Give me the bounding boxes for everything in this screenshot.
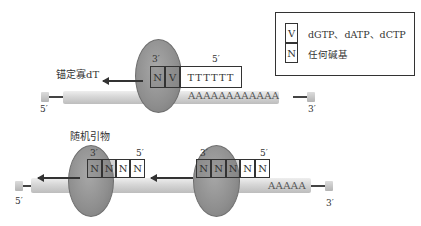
primer-5-prime-label: 5′: [212, 54, 220, 64]
legend-v-symbol: V: [285, 23, 298, 43]
primer2-base: N: [226, 159, 240, 178]
template-5-prime-label: 5′: [15, 196, 23, 206]
template-3-prime-label: 3′: [326, 198, 334, 208]
extension-arrow-2: [151, 177, 193, 179]
legend-n-symbol: N: [285, 43, 298, 63]
primer2-base: N: [211, 159, 226, 178]
primer2-5-prime-label: 5′: [260, 148, 268, 158]
legend-n-text: 任何碱基: [308, 47, 348, 61]
primer1-5-prime-label: 5′: [136, 148, 144, 158]
template-5-linker: [23, 185, 31, 187]
poly-a-tail: AAAAA: [268, 180, 306, 191]
primer-base-v: V: [165, 66, 180, 88]
template-5-end-cap: [15, 181, 23, 191]
primer2-base: N: [196, 159, 211, 178]
primer2-3-prime-label: 3′: [200, 148, 208, 158]
anchored-oligo-dt-label: 锚定寡dT: [56, 66, 99, 81]
primer1-base: N: [116, 159, 130, 178]
primer2-base: N: [255, 159, 270, 178]
template-5-prime-label: 5′: [40, 104, 48, 114]
template-3-prime-label: 3′: [308, 104, 316, 114]
template-3-linker: [311, 185, 326, 187]
primer-3-prime-label: 3′: [152, 54, 160, 64]
template-3-end-cap: [325, 181, 333, 191]
extension-arrow-1: [38, 177, 80, 179]
primer1-base: N: [87, 159, 102, 178]
primer1-base: N: [102, 159, 116, 178]
template-3-end-cap: [307, 92, 315, 102]
primer2-base: N: [240, 159, 255, 178]
primer1-3-prime-label: 3′: [90, 148, 98, 158]
template-3-linker: [293, 96, 307, 98]
primer-oligo-dt-tail: TTTTTT: [180, 66, 242, 88]
primer-base-n: N: [150, 66, 165, 88]
extension-direction-arrow: [103, 80, 143, 82]
poly-a-tail: AAAAAAAAAAAA: [188, 90, 279, 101]
random-primer-label: 随机引物: [70, 128, 110, 143]
primer1-base: N: [130, 159, 145, 178]
legend-v-text: dGTP、dATP、dCTP: [308, 27, 406, 41]
legend-box: V N dGTP、dATP、dCTP 任何碱基: [275, 12, 415, 76]
template-5-end-cap: [41, 92, 49, 102]
template-5-linker: [49, 96, 63, 98]
